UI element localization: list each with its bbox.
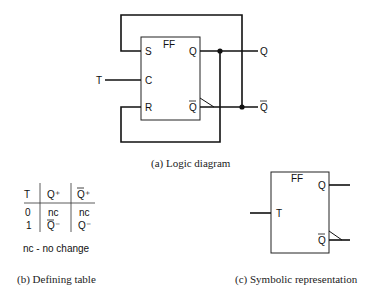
pin-r: R <box>145 102 152 113</box>
cell: 0 <box>25 207 31 218</box>
junction-dot <box>239 104 244 109</box>
output-q: Q <box>260 46 268 57</box>
ff-label: FF <box>291 173 303 184</box>
junction-dot <box>217 48 222 53</box>
pin-s: S <box>145 46 152 57</box>
table-note: nc - no change <box>23 243 90 254</box>
pin-q: Q <box>189 46 197 57</box>
defining-table: T Q⁺ Q⁺ 0 nc nc 1 Q⁻ Q⁻ nc - no change (… <box>17 183 96 286</box>
cell: 1 <box>26 220 32 231</box>
caption-c: (c) Symbolic representation <box>235 273 358 286</box>
cell: Q⁻ <box>78 220 91 231</box>
header-qplus: Q⁺ <box>47 189 60 200</box>
header-qbarplus: Q⁺ <box>77 189 90 200</box>
cell: nc <box>79 207 90 218</box>
pin-c: C <box>145 75 152 86</box>
logic-diagram: FF S C R Q Q T Q Q (a) Logic diagram <box>96 15 268 170</box>
out-qbar: Q <box>318 235 326 246</box>
input-t: T <box>276 208 282 219</box>
caption-a: (a) Logic diagram <box>151 157 231 170</box>
cell: Q⁻ <box>47 220 60 231</box>
symbolic-representation: FF T Q Q (c) Symbolic representation <box>235 172 358 286</box>
caption-b: (b) Defining table <box>17 273 96 286</box>
header-t: T <box>24 189 30 200</box>
out-q: Q <box>318 180 326 191</box>
pin-qbar: Q <box>189 102 197 113</box>
output-qbar: Q <box>260 102 268 113</box>
ff-label: FF <box>163 39 175 50</box>
cell: nc <box>48 207 59 218</box>
input-t: T <box>96 75 102 86</box>
toggle-flipflop-figure: FF S C R Q Q T Q Q (a) Logic diagram T Q… <box>0 0 382 301</box>
